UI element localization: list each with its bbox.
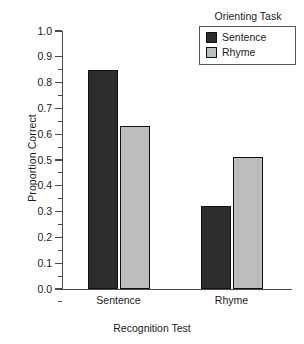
y-tick-label: 0.6	[12, 129, 52, 140]
legend-swatch-icon-sentence	[206, 32, 217, 43]
bar-sentence-sentence	[88, 70, 118, 289]
y-tick-major	[55, 82, 62, 83]
legend-label-rhyme: Rhyme	[222, 47, 255, 58]
y-tick-major	[55, 108, 62, 109]
y-tick-major	[55, 211, 62, 212]
y-tick-label: 0.4	[12, 180, 52, 191]
y-tick-label: 0.5	[12, 155, 52, 166]
y-tick-major	[55, 56, 62, 57]
y-tick-label: 0.0	[12, 284, 52, 295]
x-axis-title: Recognition Test	[0, 322, 304, 334]
y-tick-minor	[58, 301, 62, 302]
x-axis-line	[62, 289, 292, 290]
y-tick-major	[55, 263, 62, 264]
x-category-label-sentence: Sentence	[74, 294, 164, 306]
legend-item-sentence: Sentence	[206, 32, 289, 43]
bar-sentence-rhyme	[120, 126, 150, 289]
x-category-label-rhyme: Rhyme	[187, 294, 277, 306]
y-tick-major	[55, 185, 62, 186]
legend-item-rhyme: Rhyme	[206, 47, 289, 58]
legend-title: Orienting Task	[196, 10, 300, 22]
y-tick-major	[55, 134, 62, 135]
bar-rhyme-rhyme	[233, 157, 263, 289]
y-tick-major	[55, 288, 62, 289]
y-tick-major	[55, 159, 62, 160]
bar-chart: Proportion Correct 0.00.10.20.30.40.50.6…	[0, 0, 304, 344]
y-tick-label: 1.0	[12, 26, 52, 37]
legend-label-sentence: Sentence	[222, 32, 266, 43]
bar-rhyme-sentence	[201, 206, 231, 289]
y-tick-label: 0.8	[12, 77, 52, 88]
y-tick-label: 0.7	[12, 103, 52, 114]
y-tick-major	[55, 237, 62, 238]
y-tick-label: 0.9	[12, 51, 52, 62]
y-tick-major	[55, 30, 62, 31]
y-tick-label: 0.3	[12, 206, 52, 217]
legend-box: Sentence Rhyme	[199, 26, 296, 65]
y-tick-label: 0.2	[12, 232, 52, 243]
plot-area	[62, 31, 288, 289]
legend-swatch-icon-rhyme	[206, 47, 217, 58]
y-tick-label: 0.1	[12, 258, 52, 269]
